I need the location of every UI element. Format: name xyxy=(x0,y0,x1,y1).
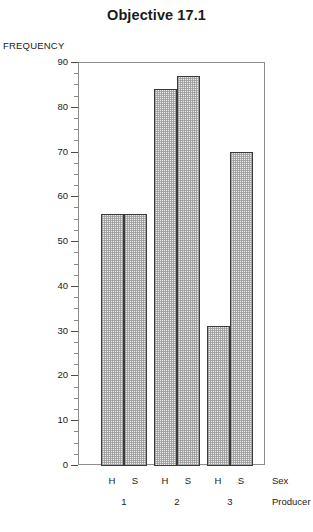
y-tick-label-80: 80 xyxy=(8,102,68,112)
y-minor-tick xyxy=(74,342,78,343)
bar-producer2-s xyxy=(177,76,200,466)
y-minor-tick xyxy=(74,364,78,365)
bar-producer3-s xyxy=(230,152,253,466)
y-minor-tick xyxy=(74,129,78,130)
y-tick-70 xyxy=(71,152,78,153)
y-tick-90 xyxy=(71,62,78,63)
y-tick-label-10: 10 xyxy=(8,415,68,425)
y-minor-tick xyxy=(74,353,78,354)
y-tick-label-70: 70 xyxy=(8,147,68,157)
x-label-sex-3s: S xyxy=(226,475,256,486)
x-label-producer-3: 3 xyxy=(210,496,250,507)
y-tick-label-50: 50 xyxy=(8,236,68,246)
y-tick-label-60: 60 xyxy=(8,191,68,201)
y-minor-tick xyxy=(74,443,78,444)
y-minor-tick xyxy=(74,454,78,455)
y-minor-tick xyxy=(74,163,78,164)
y-tick-30 xyxy=(71,331,78,332)
y-tick-10 xyxy=(71,420,78,421)
y-tick-50 xyxy=(71,241,78,242)
x-label-producer-1: 1 xyxy=(104,496,144,507)
y-minor-tick xyxy=(74,174,78,175)
bar-producer3-h xyxy=(207,326,230,466)
y-minor-tick xyxy=(74,96,78,97)
y-minor-tick xyxy=(74,398,78,399)
y-minor-tick xyxy=(74,297,78,298)
y-tick-40 xyxy=(71,286,78,287)
y-minor-tick xyxy=(74,308,78,309)
bar-producer1-h xyxy=(101,214,124,466)
y-minor-tick xyxy=(74,409,78,410)
y-minor-tick xyxy=(74,431,78,432)
y-minor-tick xyxy=(74,185,78,186)
row-caption-producer: Producer xyxy=(272,496,311,507)
x-label-sex-2s: S xyxy=(173,475,203,486)
x-label-producer-2: 2 xyxy=(157,496,197,507)
y-minor-tick xyxy=(74,207,78,208)
y-tick-20 xyxy=(71,375,78,376)
y-minor-tick xyxy=(74,118,78,119)
y-minor-tick xyxy=(74,219,78,220)
y-minor-tick xyxy=(74,140,78,141)
x-label-sex-1s: S xyxy=(120,475,150,486)
y-minor-tick xyxy=(74,387,78,388)
bar-chart: Objective 17.1 FREQUENCY 90 80 70 60 50 … xyxy=(0,0,313,532)
y-tick-label-90: 90 xyxy=(8,57,68,67)
y-minor-tick xyxy=(74,252,78,253)
y-tick-label-20: 20 xyxy=(8,370,68,380)
y-tick-label-0: 0 xyxy=(8,460,68,470)
y-minor-tick xyxy=(74,84,78,85)
y-axis-label: FREQUENCY xyxy=(3,40,64,51)
row-caption-sex: Sex xyxy=(272,475,288,486)
y-minor-tick xyxy=(74,275,78,276)
y-tick-label-30: 30 xyxy=(8,326,68,336)
y-tick-0 xyxy=(71,465,78,466)
y-minor-tick xyxy=(74,230,78,231)
bar-producer2-h xyxy=(154,89,177,466)
y-tick-label-40: 40 xyxy=(8,281,68,291)
y-tick-80 xyxy=(71,107,78,108)
y-minor-tick xyxy=(74,320,78,321)
chart-title: Objective 17.1 xyxy=(0,7,313,23)
y-minor-tick xyxy=(74,73,78,74)
y-minor-tick xyxy=(74,264,78,265)
bar-producer1-s xyxy=(124,214,147,466)
y-tick-60 xyxy=(71,196,78,197)
